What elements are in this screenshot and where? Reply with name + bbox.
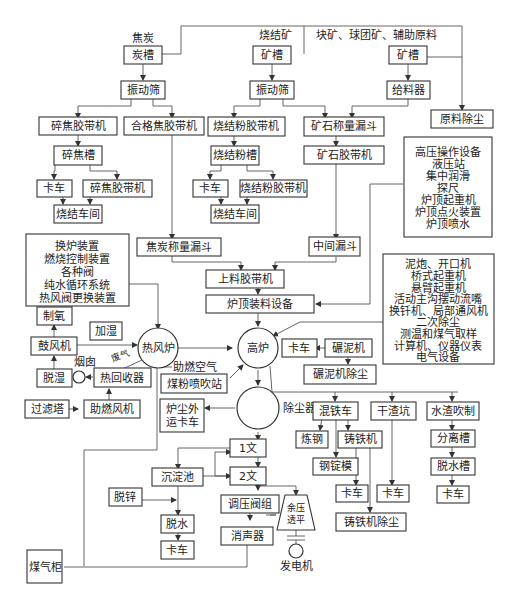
svg-text:制氧: 制氧 xyxy=(43,309,65,323)
node-top-equipment-list: 高压操作设备 液压站 集中润滑 探尺 炉顶起重机 炉顶点火装置 炉顶喷水 xyxy=(404,137,492,237)
node-coke-fines-bin: 碎焦槽 xyxy=(54,146,102,165)
svg-text:沉淀池: 沉淀池 xyxy=(161,470,194,484)
label-dust-catcher: 除尘器 xyxy=(283,401,316,415)
node-filter-tower: 过滤塔 xyxy=(25,400,69,418)
svg-text:矿石胶带机: 矿石胶带机 xyxy=(317,148,372,162)
node-top-charging-equipment: 炉顶装料设备 xyxy=(206,295,314,313)
svg-text:集中润滑: 集中润滑 xyxy=(426,169,470,183)
svg-text:泥炮、开口机: 泥炮、开口机 xyxy=(405,257,471,271)
node-sinter-fines-belt2: 烧结粉胶带机 xyxy=(240,180,307,197)
node-dust-catcher xyxy=(237,387,279,429)
svg-text:余压: 余压 xyxy=(287,502,305,513)
node-ingot-mold: 钢锭模 xyxy=(313,458,358,475)
node-sinter-screen: 振动筛 xyxy=(250,81,294,99)
svg-text:发电机: 发电机 xyxy=(280,559,313,573)
node-feeder: 给料器 xyxy=(387,81,430,99)
svg-text:水渣吹制: 水渣吹制 xyxy=(431,404,475,418)
svg-text:换炉装置: 换炉装置 xyxy=(55,239,99,253)
node-coke-bin: 炭槽 xyxy=(124,46,162,64)
node-product-truck-2: 卡车 xyxy=(377,485,409,502)
svg-text:矿槽: 矿槽 xyxy=(397,49,419,62)
svg-text:助燃风机: 助燃风机 xyxy=(90,402,134,416)
node-dry-slag-pit: 干渣坑 xyxy=(371,402,416,420)
node-pressure-valve: 调压阀组 xyxy=(221,495,279,513)
svg-text:振动筛: 振动筛 xyxy=(256,83,289,97)
svg-text:脱湿: 脱湿 xyxy=(43,371,65,385)
node-gc-truck: 卡车 xyxy=(161,541,194,559)
node-product-truck-1: 卡车 xyxy=(336,485,368,502)
node-separation-tank: 分离槽 xyxy=(431,430,475,447)
svg-text:卡车: 卡车 xyxy=(199,181,221,195)
svg-text:高炉: 高炉 xyxy=(247,341,269,355)
svg-text:测温和煤气取样: 测温和煤气取样 xyxy=(400,327,477,341)
svg-text:炉顶装料设备: 炉顶装料设备 xyxy=(227,297,293,311)
node-ore-weigh-hopper: 矿石称量漏斗 xyxy=(304,117,384,136)
svg-text:烧结粉槽: 烧结粉槽 xyxy=(213,149,257,162)
node-oxygen: 制氧 xyxy=(37,307,72,325)
node-ore-belt: 矿石胶带机 xyxy=(304,146,384,164)
svg-text:卡车: 卡车 xyxy=(288,341,310,355)
svg-text:过滤塔: 过滤塔 xyxy=(31,403,64,416)
svg-text:炭槽: 炭槽 xyxy=(132,49,154,62)
svg-text:碎焦胶带机: 碎焦胶带机 xyxy=(90,181,145,195)
node-slag-granulation: 水渣吹制 xyxy=(427,402,479,420)
node-settling-pond: 沉淀池 xyxy=(152,468,203,486)
label-flue-gas: 废气 xyxy=(110,347,131,365)
node-mud-dedust: 碾泥机除尘 xyxy=(304,365,376,384)
node-raw-material-dedust: 原料除尘 xyxy=(431,110,493,128)
svg-text:炉顶起重机: 炉顶起重机 xyxy=(421,193,476,207)
svg-text:各种阀: 各种阀 xyxy=(61,265,94,279)
svg-text:桥式起重机: 桥式起重机 xyxy=(411,269,466,283)
node-pig-machine: 铸铁机 xyxy=(338,431,382,448)
svg-text:卡车: 卡车 xyxy=(341,486,363,500)
node-coke-fines-belt: 碎焦胶带机 xyxy=(39,117,117,135)
node-coal-injection: 煤粉喷吹站 xyxy=(161,374,227,393)
svg-text:2文: 2文 xyxy=(239,469,257,483)
svg-text:脱锌: 脱锌 xyxy=(114,490,136,504)
svg-text:卡车: 卡车 xyxy=(442,487,464,501)
svg-text:给料器: 给料器 xyxy=(392,83,425,97)
svg-text:焦炭称量漏斗: 焦炭称量漏斗 xyxy=(146,240,212,254)
node-stove-equipment-list: 换炉装置 燃烧控制装置 各种阀 纯水循环系统 热风阀更换装置 xyxy=(26,234,129,306)
svg-text:热风阀更换装置: 热风阀更换装置 xyxy=(39,291,116,305)
svg-text:烟囱: 烟囱 xyxy=(74,355,96,369)
node-trt: 余压 透平 xyxy=(277,495,315,530)
svg-text:纯水循环系统: 纯水循环系统 xyxy=(44,279,110,292)
svg-text:活动主沟摆动流嘴: 活动主沟摆动流嘴 xyxy=(394,292,482,306)
process-flow-diagram: 焦炭 烧结矿 块矿、球团矿、辅助原料 炭槽 振动筛 碎焦胶带机 合格焦胶带机 碎… xyxy=(0,0,521,609)
svg-text:烧结粉胶带机: 烧结粉胶带机 xyxy=(240,181,306,195)
svg-text:调压阀组: 调压阀组 xyxy=(228,497,272,511)
node-casthouse-equipment-list: 泥炮、开口机 桥式起重机 悬臂起重机 活动主沟摆动流嘴 换钎机、局部通风机 二次… xyxy=(383,254,494,364)
svg-text:燃烧控制装置: 燃烧控制装置 xyxy=(44,252,110,266)
svg-text:炉尘外: 炉尘外 xyxy=(166,403,199,416)
svg-text:分离槽: 分离槽 xyxy=(437,431,470,445)
svg-text:矿槽: 矿槽 xyxy=(261,49,283,62)
svg-text:1文: 1文 xyxy=(239,441,257,455)
node-product-truck-3: 卡车 xyxy=(437,486,469,503)
svg-text:碾泥机: 碾泥机 xyxy=(332,341,365,355)
svg-text:钢锭模: 钢锭模 xyxy=(319,459,352,473)
svg-text:热回收器: 热回收器 xyxy=(100,371,144,385)
node-humidify: 加湿 xyxy=(90,322,122,340)
node-venturi-1: 1文 xyxy=(230,439,266,457)
node-hot-blast-stove: 热风炉 xyxy=(138,328,178,368)
node-dewater-tank: 脱水槽 xyxy=(431,458,475,475)
node-ore-bin: 矿槽 xyxy=(389,46,427,64)
svg-text:碎焦胶带机: 碎焦胶带机 xyxy=(51,119,106,133)
node-sinter-fines-bin: 烧结粉槽 xyxy=(211,146,259,165)
svg-text:高压操作设备: 高压操作设备 xyxy=(415,145,481,159)
svg-text:卡车: 卡车 xyxy=(43,181,65,195)
node-qualified-coke-belt: 合格焦胶带机 xyxy=(124,117,204,135)
node-pig-dedust: 铸铁机除尘 xyxy=(336,513,406,531)
node-coke-screen: 振动筛 xyxy=(121,81,165,99)
svg-text:电气设备: 电气设备 xyxy=(416,350,460,364)
node-mid-hopper: 中间漏斗 xyxy=(309,237,360,256)
node-heat-recovery: 热回收器 xyxy=(94,368,151,387)
svg-text:煤粉喷吹站: 煤粉喷吹站 xyxy=(167,377,222,391)
label-sinter: 烧结矿 xyxy=(259,29,292,42)
svg-text:脱水: 脱水 xyxy=(166,517,188,531)
node-sinter-plant: 烧结车间 xyxy=(211,205,259,223)
node-dehumidify: 脱湿 xyxy=(37,369,72,387)
node-sinter-bin: 矿槽 xyxy=(253,46,291,64)
node-silencer: 消声器 xyxy=(221,527,273,545)
